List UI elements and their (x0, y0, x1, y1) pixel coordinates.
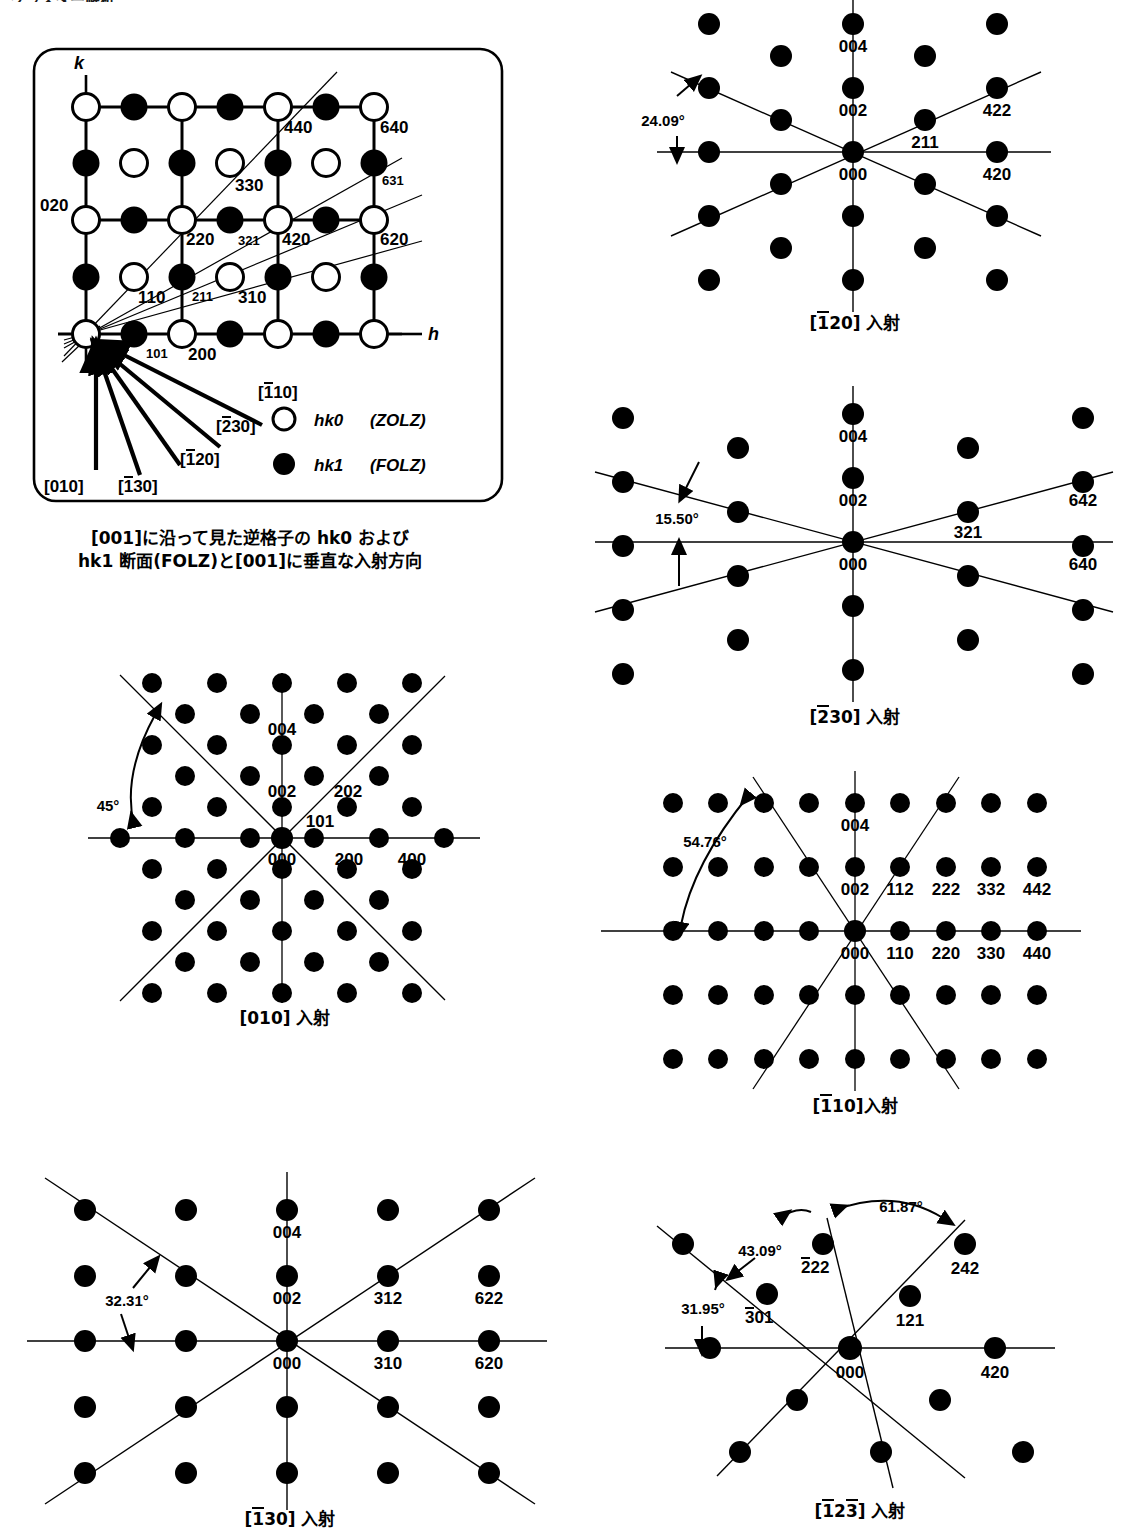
spot-label-301-bar: 301 (745, 1308, 773, 1328)
pattern-230-caption: [230] 入射 (765, 706, 945, 729)
spot-label-321: 321 (238, 233, 260, 248)
spot-label-000: 000 (839, 555, 867, 574)
reciprocal-lattice-panel: k h 000 101 200 110 211 310 020 220 321 … (30, 45, 530, 505)
spot-label-642: 642 (1069, 491, 1097, 510)
spot-label-002: 002 (273, 1289, 301, 1308)
spot-label-442: 442 (1023, 880, 1051, 899)
page-header-cut: クラスター解析 (10, 0, 260, 2)
spot-label-202: 202 (334, 782, 362, 801)
spot-label-004: 004 (268, 720, 297, 739)
spot-label-640: 640 (380, 118, 408, 137)
spot-label-200: 200 (335, 850, 363, 869)
pattern-123-caption: [123] 入射 (760, 1500, 960, 1523)
spot-label-220: 220 (932, 944, 960, 963)
angle-label-6187: 61.87° (879, 1198, 923, 1215)
pattern-110-caption: [110]入射 (765, 1095, 945, 1118)
spot-label-112: 112 (886, 880, 913, 899)
spot-label-002: 002 (268, 782, 296, 801)
pattern-230-panel: 15.50° 004 002 000 321 642 640 [230] 入射 (585, 390, 1121, 750)
axis-label-k: k (74, 53, 85, 73)
spot-label-310: 310 (238, 288, 266, 307)
spot-label-211: 211 (192, 289, 213, 304)
angle-label-110: 54.76° (683, 833, 727, 850)
direction-label-010: [010] (44, 477, 84, 497)
spot-label-004: 004 (839, 427, 868, 446)
spot-label-200: 200 (188, 345, 216, 364)
legend-zone-zolz: (ZOLZ) (370, 411, 426, 430)
spot-label-420: 420 (983, 165, 1011, 184)
angle-label-3195: 31.95° (681, 1300, 725, 1317)
direction-label-120: [120] (180, 450, 220, 470)
spot-label-121: 121 (896, 1311, 924, 1330)
legend-symbol-hk0: hk0 (314, 411, 344, 430)
angle-label-130: 32.31° (105, 1292, 149, 1309)
pattern-120-caption: [120] 入射 (765, 312, 945, 335)
spot-label-622: 622 (475, 1289, 503, 1308)
spot-label-330: 330 (977, 944, 1005, 963)
spot-label-631: 631 (382, 173, 404, 188)
direction-label-110: [110] (258, 383, 298, 403)
pattern-123-panel: 43.09° 61.87° 31.95° 242 121 000 420 222… (605, 1130, 1121, 1530)
spot-label-000: 000 (839, 165, 867, 184)
spot-label-440: 440 (1023, 944, 1051, 963)
pattern-010-svg: 45° 004 002 202 101 000 200 400 (60, 655, 600, 1045)
spot-label-110: 110 (886, 944, 913, 963)
legend-filled-circle-icon (273, 453, 295, 475)
spot-label-000: 000 (836, 1363, 864, 1382)
pattern-130-svg: 32.31° 004 002 312 622 000 310 620 (25, 1110, 581, 1530)
spot-label-400: 400 (398, 850, 426, 869)
spot-label-312: 312 (374, 1289, 402, 1308)
spot-label-000: 000 (92, 345, 120, 364)
spot-label-422: 422 (983, 101, 1011, 120)
legend-zone-folz: (FOLZ) (370, 456, 426, 475)
pattern-010-caption: [010] 入射 (195, 1007, 375, 1030)
reciprocal-panel-caption: [001]に沿って見た逆格子の hk0 および hk1 断面(FOLZ)と[00… (40, 527, 460, 573)
spot-label-004: 004 (841, 816, 870, 835)
spot-label-000: 000 (268, 850, 296, 869)
caption-line-1: [001]に沿って見た逆格子の hk0 および (40, 527, 460, 550)
pattern-230-svg: 15.50° 004 002 000 321 642 640 (585, 390, 1121, 750)
spot-label-004: 004 (273, 1223, 302, 1242)
spot-label-000: 000 (273, 1354, 301, 1373)
angle-label-120: 24.09° (641, 112, 685, 129)
pattern-010-panel: 45° 004 002 202 101 000 200 400 [010] 入射 (60, 655, 600, 1045)
spot-label-002: 002 (839, 491, 867, 510)
pattern-130-caption: [130] 入射 (200, 1508, 380, 1531)
pattern-130-panel: 32.31° 004 002 312 622 000 310 620 [130]… (25, 1110, 581, 1530)
spot-label-310: 310 (374, 1354, 402, 1373)
legend-symbol-hk1: hk1 (314, 456, 343, 475)
spot-label-420: 420 (282, 230, 310, 249)
spot-label-420: 420 (981, 1363, 1009, 1382)
pattern-120-panel: 24.09° 004 002 000 211 422 420 [120] 入射 (585, 0, 1121, 350)
spot-label-004: 004 (839, 37, 868, 56)
spot-label-332: 332 (977, 880, 1005, 899)
pattern-120-svg: 24.09° 004 002 000 211 422 420 (585, 0, 1121, 350)
angle-label-010: 45° (97, 797, 120, 814)
spot-label-321: 321 (954, 523, 982, 542)
pattern-110-panel: 54.76° 004 002 112 222 332 442 000 110 2… (565, 765, 1121, 1125)
pattern-123-svg: 43.09° 61.87° 31.95° 242 121 000 420 (605, 1130, 1121, 1530)
axis-label-h: h (428, 324, 439, 344)
spot-label-000: 000 (841, 944, 869, 963)
spot-label-101: 101 (306, 812, 334, 831)
spot-label-620: 620 (380, 230, 408, 249)
direction-label-230: [230] (216, 417, 256, 437)
spot-label-330: 330 (235, 176, 263, 195)
spot-label-222-bar: 222 (801, 1258, 829, 1278)
spot-label-220: 220 (186, 230, 214, 249)
direction-label-130: [130] (118, 477, 158, 497)
spot-label-640: 640 (1069, 555, 1097, 574)
pattern-110-svg: 54.76° 004 002 112 222 332 442 000 110 2… (565, 765, 1121, 1125)
spot-label-110: 110 (138, 288, 165, 307)
spot-label-242: 242 (951, 1259, 979, 1278)
spot-label-211: 211 (911, 133, 938, 152)
spot-label-002: 002 (839, 101, 867, 120)
spot-label-020: 020 (40, 196, 68, 215)
reciprocal-lattice-svg: k h 000 101 200 110 211 310 020 220 321 … (30, 45, 530, 505)
spot-label-222: 222 (932, 880, 960, 899)
spot-label-620: 620 (475, 1354, 503, 1373)
angle-label-4309: 43.09° (738, 1242, 782, 1259)
angle-label-230: 15.50° (655, 510, 699, 527)
legend-open-circle-icon (273, 408, 295, 430)
caption-line-2: hk1 断面(FOLZ)と[001]に垂直な入射方向 (40, 550, 460, 573)
